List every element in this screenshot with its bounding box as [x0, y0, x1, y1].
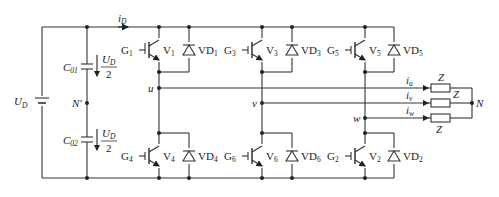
diode-vd5: VD5	[388, 42, 423, 58]
svg-text:N: N	[475, 97, 484, 109]
svg-text:Z: Z	[438, 71, 445, 83]
phase-u-output: u iu Z	[148, 71, 472, 94]
svg-text:VD6: VD6	[301, 150, 321, 164]
svg-text:V6: V6	[266, 150, 278, 164]
dc-source: UD	[14, 95, 49, 110]
diode-vd1: VD1	[183, 42, 218, 58]
svg-text:2: 2	[106, 142, 112, 154]
phase-v-output: v iv Z	[252, 88, 472, 109]
midpoint-node: N'	[71, 97, 89, 109]
inverter-circuit-diagram: UD iD C01 UD 2 C02 UD 2 N'	[0, 0, 499, 197]
diode-vd3: VD3	[286, 42, 321, 58]
svg-text:C01: C01	[63, 61, 78, 75]
phase-w-output: w iw Z	[353, 104, 472, 135]
svg-text:C02: C02	[63, 134, 78, 148]
svg-text:VD1: VD1	[198, 44, 218, 58]
svg-text:UD: UD	[102, 127, 116, 141]
svg-text:VD5: VD5	[403, 44, 423, 58]
igbt-v1: G1 V1	[121, 38, 175, 62]
svg-text:2: 2	[106, 68, 112, 80]
capacitor-c02: C02 UD 2	[63, 127, 117, 154]
diode-vd4: VD4	[183, 148, 218, 164]
igbt-v2: G2 V2	[327, 144, 381, 168]
svg-text:VD4: VD4	[198, 150, 218, 164]
svg-text:V4: V4	[163, 150, 175, 164]
svg-text:iu: iu	[406, 74, 413, 88]
dc-current-arrow: iD	[118, 12, 128, 27]
svg-text:v: v	[252, 97, 257, 109]
svg-text:w: w	[353, 112, 361, 124]
diode-vd6: VD6	[286, 148, 321, 164]
igbt-v4: G4 V4	[121, 144, 175, 168]
svg-text:G5: G5	[327, 44, 339, 58]
svg-text:VD3: VD3	[301, 44, 321, 58]
svg-text:G2: G2	[327, 150, 339, 164]
svg-text:iD: iD	[118, 12, 127, 26]
svg-text:G4: G4	[121, 150, 133, 164]
svg-text:VD2: VD2	[403, 150, 423, 164]
svg-text:iw: iw	[406, 104, 414, 118]
svg-text:Z: Z	[453, 88, 460, 100]
load-neutral: N	[470, 88, 484, 118]
source-label: UD	[14, 95, 28, 110]
svg-text:V2: V2	[369, 150, 381, 164]
svg-text:G1: G1	[121, 44, 133, 58]
igbt-v5: G5 V5	[327, 38, 381, 62]
capacitor-c01: C01 UD 2	[63, 53, 117, 80]
svg-text:N': N'	[71, 97, 82, 109]
svg-text:G6: G6	[224, 150, 236, 164]
svg-text:V5: V5	[369, 44, 381, 58]
svg-text:Z: Z	[436, 123, 443, 135]
diode-vd2: VD2	[388, 148, 423, 164]
svg-text:u: u	[148, 82, 154, 94]
svg-text:V1: V1	[163, 44, 175, 58]
svg-text:iv: iv	[406, 89, 413, 103]
igbt-v3: G3 V3	[224, 38, 278, 62]
igbt-v6: G6 V6	[224, 144, 278, 168]
svg-text:V3: V3	[266, 44, 278, 58]
svg-text:G3: G3	[224, 44, 236, 58]
svg-text:UD: UD	[102, 53, 116, 67]
